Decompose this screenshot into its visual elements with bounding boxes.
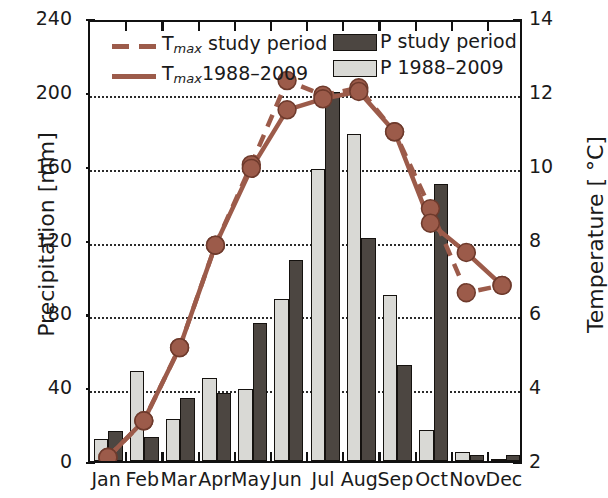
plot-area: Tmax study periodTmax1988–2009P study pe…	[88, 20, 522, 463]
y-tick-label-right: 6	[529, 302, 589, 324]
y-tick-label-right: 14	[529, 7, 589, 29]
legend-solid-line-swatch	[112, 74, 156, 79]
y-tick-label-left: 120	[12, 229, 72, 251]
y-axis-right-ticks: 1412108642	[529, 0, 589, 498]
y-axis-left-ticks: 24020016012080400	[12, 0, 72, 498]
y-tick-label-left: 80	[12, 302, 72, 324]
x-axis-ticks: JanFebMarAprMayJunJulAugSepOctNovDec	[88, 466, 522, 498]
legend-label-0: Tmax study period	[162, 32, 327, 56]
y-tick-label-left: 200	[12, 81, 72, 103]
legend-label-1: Tmax1988–2009	[162, 62, 308, 86]
x-tick-label-dec: Dec	[474, 468, 534, 490]
y-tick-label-left: 40	[12, 376, 72, 398]
y-tick-label-right: 12	[529, 81, 589, 103]
y-tick-label-left: 160	[12, 155, 72, 177]
y-tick-label-right: 10	[529, 155, 589, 177]
legend-dashed-line-swatch	[112, 44, 129, 49]
y-tick-label-right: 2	[529, 450, 589, 472]
y-tick-label-left: 0	[12, 450, 72, 472]
legend-dark-swatch	[333, 34, 377, 51]
y-tick-label-left: 240	[12, 7, 72, 29]
y-tick-label-right: 4	[529, 376, 589, 398]
legend-light-swatch	[333, 60, 377, 77]
legend-label-3: P 1988–2009	[380, 56, 504, 78]
legend-dashed-line-swatch	[139, 44, 156, 49]
legend-label-2: P study period	[380, 30, 517, 52]
chart-legend: Tmax study periodTmax1988–2009P study pe…	[90, 22, 520, 461]
y-tick-label-right: 8	[529, 229, 589, 251]
